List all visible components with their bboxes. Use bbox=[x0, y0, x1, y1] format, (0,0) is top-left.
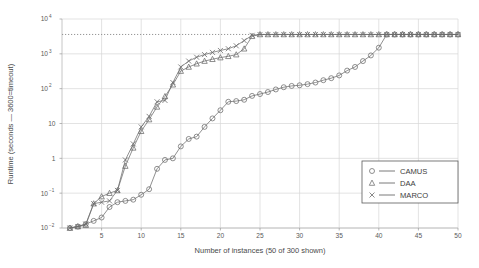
x-tick-label: 50 bbox=[454, 232, 462, 239]
x-tick-label: 10 bbox=[138, 232, 146, 239]
x-tick-label: 35 bbox=[336, 232, 344, 239]
x-tick-label: 45 bbox=[415, 232, 423, 239]
svg-text:10: 10 bbox=[41, 85, 49, 92]
svg-text:10: 10 bbox=[48, 120, 56, 127]
svg-text:10: 10 bbox=[41, 50, 49, 57]
y-tick-label: 10 bbox=[48, 120, 56, 127]
svg-text:2: 2 bbox=[49, 83, 52, 88]
svg-text:−1: −1 bbox=[49, 188, 55, 193]
legend-label: MARCO bbox=[400, 191, 428, 200]
svg-text:4: 4 bbox=[49, 14, 52, 19]
legend-label: CAMUS bbox=[400, 167, 427, 176]
y-tick-label: 1 bbox=[52, 155, 56, 162]
runtime-cactus-plot: 5101520253035404550 10−210−1110102103104… bbox=[0, 0, 479, 268]
y-axis-label: Runtime (seconds — 3600=timeout) bbox=[6, 63, 15, 184]
svg-text:10: 10 bbox=[41, 190, 49, 197]
svg-text:−2: −2 bbox=[49, 223, 55, 228]
legend-label: DAA bbox=[400, 179, 417, 188]
svg-text:10: 10 bbox=[41, 15, 49, 22]
svg-text:1: 1 bbox=[52, 155, 56, 162]
svg-text:3: 3 bbox=[49, 49, 52, 54]
x-tick-label: 30 bbox=[296, 232, 304, 239]
chart-legend[interactable]: CAMUSDAAMARCO bbox=[362, 161, 458, 203]
chart-figure: 5101520253035404550 10−210−1110102103104… bbox=[0, 0, 479, 268]
x-tick-label: 5 bbox=[100, 232, 104, 239]
x-tick-label: 20 bbox=[217, 232, 225, 239]
x-tick-label: 15 bbox=[177, 232, 185, 239]
x-tick-label: 25 bbox=[256, 232, 264, 239]
svg-text:10: 10 bbox=[41, 224, 49, 231]
x-axis-label: Number of instances (50 of 300 shown) bbox=[195, 246, 326, 255]
x-tick-label: 40 bbox=[375, 232, 383, 239]
